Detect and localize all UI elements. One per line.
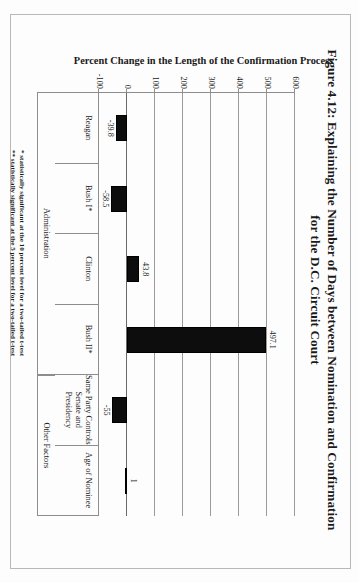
note-one-star: * statistically significant at the 10 pe… bbox=[17, 150, 26, 356]
bar[interactable] bbox=[127, 327, 266, 353]
y-tick-label-200: 200 bbox=[179, 77, 188, 89]
figure-title: Figure 4.12: Explaining the Number of Da… bbox=[307, 40, 341, 540]
group-label: Administration bbox=[37, 92, 55, 375]
bar-slot: 1 bbox=[99, 446, 295, 517]
category-label: Same Party Controls Senate and Presidenc… bbox=[55, 375, 98, 446]
bar[interactable] bbox=[112, 397, 127, 423]
y-tick-label--100: -100 bbox=[95, 74, 104, 89]
group-label: Other Factors bbox=[37, 375, 55, 516]
bar-series: -39.8-58.543.8497.1-551 bbox=[99, 93, 295, 516]
category-label: Bush I* bbox=[55, 164, 98, 235]
bar-slot: -55 bbox=[99, 375, 295, 446]
bar-slot: 497.1 bbox=[99, 305, 295, 376]
y-tick-label-400: 400 bbox=[235, 77, 244, 89]
note-two-star: ** statistically significant at the 5 pe… bbox=[8, 150, 17, 356]
figure-title-line-1: Figure 4.12: Explaining the Number of Da… bbox=[324, 40, 341, 540]
y-axis-title: Percent Change in the Length of the Conf… bbox=[74, 55, 334, 66]
figure-title-line-2: for the D.C. Circuit Court bbox=[307, 40, 324, 540]
bar-slot: -39.8 bbox=[99, 93, 295, 164]
bar-value-label: -58.5 bbox=[101, 190, 110, 207]
category-label: Bush II* bbox=[55, 305, 98, 376]
category-label: Reagan bbox=[55, 92, 98, 164]
y-tick-label-500: 500 bbox=[263, 77, 272, 89]
bar-value-label: 1 bbox=[129, 479, 138, 483]
y-tick-label-600: 600 bbox=[291, 77, 300, 89]
bar[interactable] bbox=[125, 468, 127, 494]
bar[interactable] bbox=[127, 256, 139, 282]
figure-notes: * statistically significant at the 10 pe… bbox=[8, 150, 26, 356]
bar-value-label: -55 bbox=[102, 405, 111, 416]
bar[interactable] bbox=[116, 115, 127, 141]
y-tick-label-100: 100 bbox=[151, 77, 160, 89]
bar-value-label: 497.1 bbox=[268, 331, 277, 349]
figure-page: Figure 4.12: Explaining the Number of Da… bbox=[0, 0, 359, 583]
bar-slot: 43.8 bbox=[99, 234, 295, 305]
bar-value-label: -39.8 bbox=[106, 120, 115, 137]
y-tick-label-300: 300 bbox=[207, 77, 216, 89]
y-tick-label-0: 0 bbox=[123, 85, 132, 89]
bar[interactable] bbox=[111, 186, 127, 212]
bar-slot: -58.5 bbox=[99, 164, 295, 235]
rotated-page-wrapper: Figure 4.12: Explaining the Number of Da… bbox=[0, 0, 359, 583]
group-axis: AdministrationOther Factors bbox=[33, 92, 55, 516]
plot-area: 6005004003002001000-100 -39.8-58.543.849… bbox=[99, 92, 295, 516]
plot-frame: 6005004003002001000-100 -39.8-58.543.849… bbox=[99, 92, 295, 516]
bar-value-label: 43.8 bbox=[141, 262, 150, 276]
category-label: Age of Nominee bbox=[55, 446, 98, 517]
category-label: Clinton bbox=[55, 234, 98, 305]
category-axis: ReaganBush I*ClintonBush II*Same Party C… bbox=[55, 92, 99, 516]
